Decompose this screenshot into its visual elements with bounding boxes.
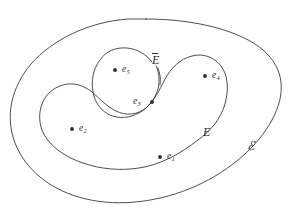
point-label-e4: e4: [212, 71, 219, 81]
point-label-e2: e2: [79, 124, 86, 134]
set-label-universe: ℰ: [247, 140, 255, 153]
point-label-e3-sub: 3: [137, 100, 140, 107]
diagram-canvas: [0, 0, 292, 219]
point-dot-e4: [203, 74, 207, 78]
point-label-e4-sub: 4: [216, 74, 219, 81]
set-label-e-bar-base: E: [152, 54, 159, 66]
point-label-e5: e5: [122, 65, 129, 75]
point-dot-e2: [70, 127, 74, 131]
set-diagram-figure: e1 e2 e3 e4 e5 E E ℰ: [0, 0, 292, 219]
set-e-outline: [40, 55, 228, 169]
point-label-e1: e1: [167, 152, 174, 162]
point-label-e1-sub: 1: [171, 155, 174, 162]
set-label-e: E: [203, 126, 210, 138]
point-dot-e5: [113, 68, 117, 72]
set-e-bar-outline: [92, 48, 159, 118]
set-label-e-bar: E: [152, 54, 159, 66]
universal-set-outline: [10, 19, 281, 203]
point-label-e3: e3: [133, 97, 140, 107]
point-dot-e1: [158, 155, 162, 159]
point-label-e5-sub: 5: [126, 68, 129, 75]
point-dot-e3: [150, 100, 154, 104]
point-label-e2-sub: 2: [83, 127, 86, 134]
